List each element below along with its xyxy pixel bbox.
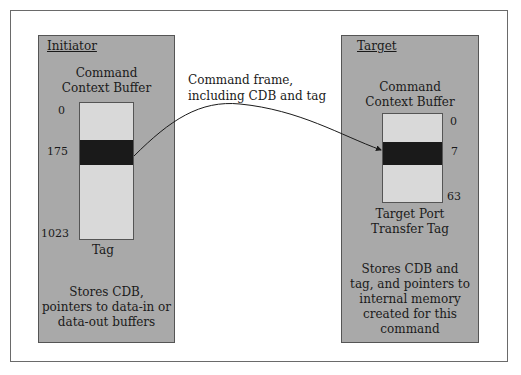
command-frame-arrow <box>0 0 521 375</box>
